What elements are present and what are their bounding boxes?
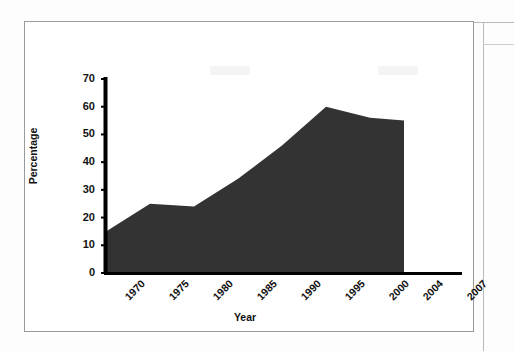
y-tick-label: 0 (73, 267, 95, 278)
y-tick-label: 60 (73, 101, 95, 112)
y-tick-label: 10 (73, 239, 95, 250)
x-axis-title: Year (185, 311, 305, 323)
y-tick-label: 50 (73, 128, 95, 139)
y-tick-label: 30 (73, 184, 95, 195)
y-tick-label: 40 (73, 156, 95, 167)
y-axis-title: Percentage (27, 116, 39, 196)
y-tick-label: 70 (73, 73, 95, 84)
y-tick-label: 20 (73, 212, 95, 223)
series-area-percentage (106, 107, 404, 273)
chart-canvas (0, 0, 514, 351)
area-chart: 010203040506070 197019751980198519901995… (0, 0, 514, 351)
